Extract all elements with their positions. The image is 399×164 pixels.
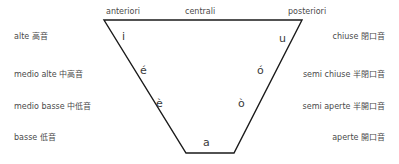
left-label-alte: alte 高音	[14, 33, 48, 41]
vowel-u: u	[279, 33, 286, 44]
axis-label-posteriori: posteriori	[288, 8, 326, 16]
vowel-o-grave: ò	[238, 98, 245, 109]
vowel-e-acute: é	[140, 65, 147, 76]
vowel-o-acute: ó	[257, 65, 264, 76]
trapezoid-polygon	[104, 20, 302, 153]
right-label-semi-aperte: semi aperte 半開口音	[303, 103, 385, 111]
axis-label-anteriori: anteriori	[106, 8, 140, 16]
axis-label-centrali: centrali	[185, 8, 215, 16]
left-label-medio-basse: medio basse 中低音	[14, 103, 91, 111]
left-label-medio-alte: medio alte 中高音	[14, 71, 83, 79]
left-label-basse: basse 低音	[14, 134, 56, 142]
vowel-trapezoid-diagram: anteriori centrali posteriori alte 高音 me…	[0, 0, 399, 164]
right-label-semi-chiuse: semi chiuse 半閉口音	[303, 71, 385, 79]
vowel-a: a	[203, 137, 210, 148]
right-label-aperte: aperte 開口音	[332, 134, 385, 142]
vowel-e-grave: è	[156, 98, 163, 109]
right-label-chiuse: chiuse 閉口音	[333, 33, 385, 41]
vowel-i: i	[122, 31, 125, 42]
